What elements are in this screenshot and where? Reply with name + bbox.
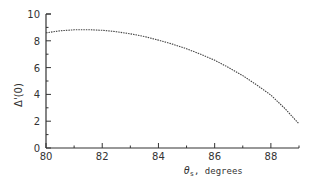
axes [46,14,299,148]
y-tick-label: 4 [34,89,40,100]
x-tick-label: 88 [265,151,278,162]
y-tick-label: 6 [34,63,40,74]
axis-labels: 80828486880246810Δ'(0)θs, degrees [13,9,277,178]
x-tick-label: 82 [96,151,109,162]
y-tick-label: 2 [34,116,40,127]
chart: 80828486880246810Δ'(0)θs, degrees [0,0,316,182]
x-tick-label: 86 [208,151,221,162]
x-tick-label: 84 [152,151,165,162]
y-tick-label: 10 [27,9,40,20]
y-tick-label: 0 [34,143,40,154]
data-curve [46,30,299,124]
data-series-curve [46,30,299,124]
y-tick-label: 8 [34,36,40,47]
x-axis-title: θs, degrees [184,165,243,178]
y-axis-title: Δ'(0) [13,83,24,107]
x-tick-label: 80 [40,151,53,162]
